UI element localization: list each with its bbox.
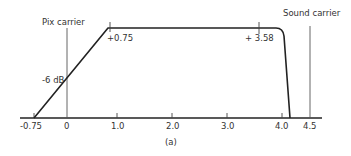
tick-label: 3.0 — [221, 122, 235, 131]
channel-response-figure: Pix carrier Sound carrier -6 dB +0.75 + … — [0, 0, 351, 156]
figure-caption: (a) — [165, 138, 177, 147]
tick-label: 1.0 — [111, 122, 125, 131]
axis-ticks — [34, 113, 282, 118]
sound-carrier-label: Sound carrier — [283, 9, 340, 18]
tick-label: -0.75 — [20, 122, 42, 131]
tick-label: 4.5 — [303, 122, 317, 131]
tick-label: 0 — [64, 122, 69, 131]
minus-6db-label: -6 dB — [42, 76, 64, 85]
tick-label: 4.0 — [275, 122, 289, 131]
tick-label: 2.0 — [166, 122, 180, 131]
plus-358-label: + 3.58 — [245, 34, 274, 43]
plus-075-label: +0.75 — [107, 34, 133, 43]
pix-carrier-label: Pix carrier — [42, 18, 85, 27]
